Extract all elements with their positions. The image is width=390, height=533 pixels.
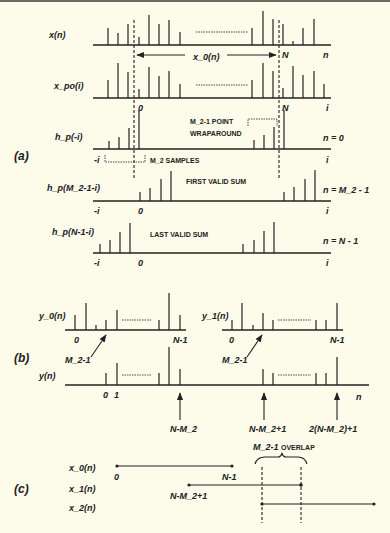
tick-N1-y0: N-1 xyxy=(173,335,188,345)
label-hp-m2-1-i: h_p(M_2-1-i) xyxy=(47,183,100,193)
first-valid-sum: FIRST VALID SUM xyxy=(186,178,246,185)
label-y1: y_1(n) xyxy=(201,311,229,321)
mark-2-n-m2-plus-1: 2(N-M_2)+1 xyxy=(308,424,357,434)
row-x-n: x(n) N n xyxy=(48,11,331,62)
label-x2-c: x_2(n) xyxy=(68,503,96,513)
axis-end-i-2: i xyxy=(326,155,329,165)
axis-end-n-y: n xyxy=(356,392,362,402)
wraparound-label-2: WRAPAROUND xyxy=(190,130,242,137)
label-x1-c: x_1(n) xyxy=(68,484,96,494)
section-c-tag: (c) xyxy=(14,482,29,496)
tick-0-y0: 0 xyxy=(74,335,79,345)
axis-end-i-4: i xyxy=(326,258,329,268)
x0-end: N-1 xyxy=(222,472,237,482)
section-a-tag: (a) xyxy=(14,149,29,163)
section-b-tag: (b) xyxy=(14,351,29,365)
x1-start: N-M_2+1 xyxy=(170,491,207,501)
axis-start-minus-i-3: -i xyxy=(94,258,100,268)
condition-m2-1: n = M_2 - 1 xyxy=(323,185,369,195)
axis-end-n: n xyxy=(323,50,329,60)
label-y0: y_0(n) xyxy=(38,311,66,321)
label-x0-c: x_0(n) xyxy=(68,463,96,473)
section-c: (c) x_0(n) x_1(n) x_2(n) 0 N-1 N-M_2+1 M… xyxy=(14,442,376,523)
wraparound-label-1: M_2-1 POINT xyxy=(190,118,234,125)
condition-n0: n = 0 xyxy=(323,133,344,143)
condition-n-1: n = N - 1 xyxy=(323,236,358,246)
tick-0-y1: 0 xyxy=(229,335,234,345)
axis-end-i-3: i xyxy=(326,206,329,216)
tick-N1-y1: N-1 xyxy=(330,335,345,345)
row-y0: y_0(n) 0 N-1 M_2-1 xyxy=(38,293,188,365)
tick-0-y: 0 xyxy=(103,390,108,400)
overlap-save-diagram: (a) x(n) xyxy=(0,0,390,533)
row-xpo-i: x_po(i) 0 N i xyxy=(53,63,331,113)
row-hp-n-1-i: h_p(N-1-i) LAST VALID SUM n = N - 1 -i 0… xyxy=(52,222,358,268)
row-hp-minus-i: h_p(-i) M_2-1 POINT WRAPAROUND n = 0 -i … xyxy=(55,110,344,165)
tick-1-y: 1 xyxy=(114,390,119,400)
overlap-num: M_2-1 xyxy=(253,442,279,452)
samples-label: M_2 SAMPLES xyxy=(150,157,200,164)
label-x-n: x(n) xyxy=(48,30,66,40)
arrow-label-m2-1-b: M_2-1 xyxy=(222,355,248,365)
x0-start: 0 xyxy=(114,472,119,482)
overlap-text: OVERLAP xyxy=(281,444,315,451)
axis-start-minus-i-1: -i xyxy=(94,155,100,165)
tick-0-hp3: 0 xyxy=(138,258,143,268)
label-hp-n-1-i: h_p(N-1-i) xyxy=(52,227,94,237)
range-label-x0: x_0(n) xyxy=(192,52,220,62)
label-y: y(n) xyxy=(38,371,56,381)
axis-end-i-1: i xyxy=(326,103,329,113)
row-hp-m2-1-i: h_p(M_2-1-i) FIRST VALID SUM n = M_2 - 1… xyxy=(47,170,369,216)
marker-N-xpo: N xyxy=(282,103,289,113)
row-y1: y_1(n) 0 N-1 M_2-1 xyxy=(201,303,345,365)
section-b: (b) y_0(n) 0 N-1 M_2-1 y_1(n) xyxy=(14,293,369,434)
marker-N-x: N xyxy=(282,50,289,60)
label-hp-minus-i: h_p(-i) xyxy=(55,132,83,142)
mark-n-m2: N-M_2 xyxy=(170,424,197,434)
arrow-label-m2-1-a: M_2-1 xyxy=(65,355,91,365)
mark-n-m2-plus-1: N-M_2+1 xyxy=(249,424,286,434)
label-xpo-i: x_po(i) xyxy=(53,81,84,91)
section-a: (a) x(n) xyxy=(14,11,369,268)
last-valid-sum: LAST VALID SUM xyxy=(150,231,208,238)
axis-start-minus-i-2: -i xyxy=(94,206,100,216)
tick-0-hp2: 0 xyxy=(138,206,143,216)
